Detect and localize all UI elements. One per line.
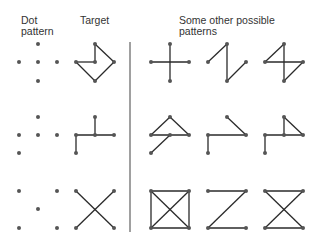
pattern-dot [225,79,229,83]
pattern-dot [263,226,267,230]
pattern-dot [225,115,229,119]
pattern-dot [17,60,21,64]
pattern-dot [112,226,116,230]
target-pattern [74,115,116,155]
dot-pattern [17,189,59,230]
pattern-line [95,44,114,62]
pattern-dot [282,79,286,83]
other-pattern-1 [149,115,191,155]
pattern-dot [263,60,267,64]
pattern-dot [36,207,40,211]
pattern-dot [17,226,21,230]
pattern-dot [74,189,78,193]
pattern-dot [244,133,248,137]
pattern-dot [112,133,116,137]
pattern-dot [244,189,248,193]
pattern-dot [36,60,40,64]
pattern-dot [17,133,21,137]
patterns-group [17,42,305,230]
pattern-dot [206,133,210,137]
pattern-dot [17,151,21,155]
pattern-dot [168,133,172,137]
pattern-dot [93,115,97,119]
pattern-dot [206,151,210,155]
pattern-dot [225,42,229,46]
other-pattern-3 [263,189,305,230]
pattern-dot [36,42,40,46]
pattern-dot [187,60,191,64]
pattern-dot [149,189,153,193]
other-pattern-3 [263,42,305,83]
pattern-dot [36,79,40,83]
pattern-dot [187,189,191,193]
pattern-line [76,62,95,81]
pattern-dot [301,226,305,230]
pattern-dot [206,226,210,230]
pattern-dot [149,133,153,137]
pattern-dot [301,189,305,193]
pattern-line [95,62,114,81]
pattern-dot [168,79,172,83]
pattern-dot [263,151,267,155]
other-pattern-2 [206,115,248,155]
pattern-line [170,117,189,135]
pattern-dot [187,226,191,230]
pattern-dot [93,42,97,46]
pattern-dot [93,60,97,64]
pattern-dot [55,226,59,230]
pattern-dot [187,133,191,137]
pattern-dot [206,189,210,193]
pattern-dot [263,189,267,193]
pattern-dot [282,133,286,137]
row-3 [17,189,305,230]
pattern-dot [55,189,59,193]
pattern-dot [74,60,78,64]
row-1 [17,42,305,83]
dot-pattern [17,42,59,83]
pattern-dot [112,189,116,193]
pattern-dot [74,226,78,230]
pattern-line [284,62,303,81]
pattern-dot [282,115,286,119]
pattern-dot [149,226,153,230]
pattern-dot [149,60,153,64]
other-pattern-2 [206,42,248,83]
pattern-line [284,117,303,135]
pattern-dot [244,60,248,64]
pattern-dot [168,42,172,46]
pattern-dot [36,133,40,137]
pattern-dot [244,226,248,230]
pattern-dot [112,60,116,64]
pattern-dot [55,133,59,137]
pattern-dot [93,79,97,83]
other-pattern-1 [149,42,191,83]
pattern-dot [17,189,21,193]
pattern-line [151,117,170,135]
pattern-dot [282,42,286,46]
pattern-line [151,135,170,153]
pattern-dot [36,115,40,119]
other-pattern-3 [263,115,305,155]
other-pattern-1 [149,189,191,230]
pattern-dot [74,151,78,155]
pattern-dot [55,60,59,64]
pattern-dot [74,133,78,137]
pattern-dot [206,60,210,64]
pattern-line [227,117,246,135]
pattern-line [208,191,246,228]
pattern-line [265,44,284,62]
target-pattern [74,189,116,230]
other-pattern-2 [206,189,248,230]
pattern-dot [149,151,153,155]
pattern-dot [301,133,305,137]
pattern-dot [93,133,97,137]
pattern-dot [168,115,172,119]
pattern-line [227,62,246,81]
pattern-line [208,44,227,62]
row-2 [17,115,305,155]
pattern-dot [263,133,267,137]
dot-pattern-diagram [0,0,326,245]
target-pattern [74,42,116,83]
pattern-dot [301,60,305,64]
dot-pattern [17,115,59,155]
